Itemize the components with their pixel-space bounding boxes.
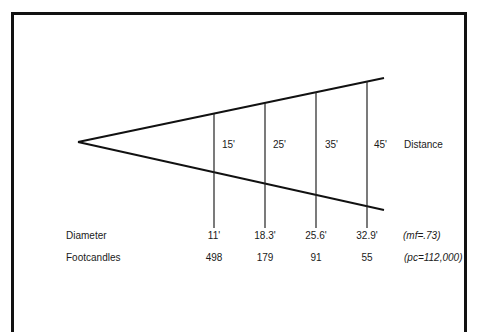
beam-lower-edge bbox=[78, 142, 384, 210]
distance-label-35: 35' bbox=[325, 139, 338, 151]
footcandles-value: 498 bbox=[206, 252, 223, 264]
distance-label-15: 15' bbox=[222, 139, 235, 151]
diameter-value: 18.3' bbox=[254, 230, 275, 242]
footcandles-note: (pc=112,000) bbox=[404, 252, 462, 264]
diameter-note: (mf=.73) bbox=[403, 230, 441, 242]
beam-upper-edge bbox=[78, 78, 384, 142]
footcandles-value: 55 bbox=[361, 252, 372, 264]
footcandles-value: 179 bbox=[257, 252, 274, 264]
footcandles-row-label: Footcandles bbox=[66, 252, 120, 264]
distance-label-25: 25' bbox=[273, 139, 286, 151]
distance-axis-label: Distance bbox=[404, 139, 443, 151]
diameter-row-label: Diameter bbox=[66, 230, 107, 242]
distance-label-45: 45' bbox=[374, 139, 387, 151]
diameter-value: 32.9' bbox=[356, 230, 377, 242]
footcandles-value: 91 bbox=[310, 252, 321, 264]
diameter-value: 25.6' bbox=[305, 230, 326, 242]
diameter-value: 11' bbox=[208, 230, 220, 242]
